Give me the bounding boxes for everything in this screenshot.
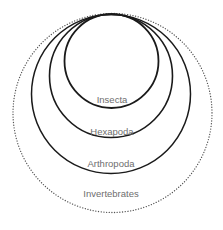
hexapoda-label: Hexapoda — [90, 126, 134, 137]
arthropoda-label: Arthropoda — [87, 158, 135, 169]
invertebrates-label: Invertebrates — [83, 188, 139, 199]
hexapoda-circle — [50, 15, 173, 138]
invertebrates-circle — [13, 14, 212, 213]
nested-set-diagram: Insecta Hexapoda Arthropoda Invertebrate… — [0, 0, 223, 230]
insecta-label: Insecta — [97, 94, 128, 105]
